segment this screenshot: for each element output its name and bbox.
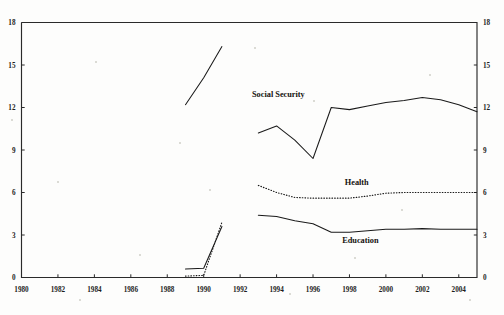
y-tick-label-left: 18	[8, 19, 16, 27]
y-tick-label-right: 3	[483, 232, 487, 240]
x-tick-label: 1988	[160, 286, 175, 294]
line-chart-canvas: 0369121518 0369121518 198019821984198619…	[0, 0, 504, 315]
y-tick-label-left: 3	[12, 232, 16, 240]
y-tick-label-right: 18	[483, 19, 491, 27]
x-tick-label: 1982	[51, 286, 66, 294]
y-tick-label-left: 12	[8, 104, 16, 112]
x-tick-label: 2000	[379, 286, 394, 294]
y-tick-label-right: 0	[483, 274, 487, 282]
y-tick-label-right: 12	[483, 104, 491, 112]
y-tick-label-left: 6	[12, 189, 16, 197]
y-tick-label-left: 9	[12, 147, 16, 155]
y-tick-label-right: 6	[483, 189, 487, 197]
series-label-social-security: Social Security	[252, 90, 306, 99]
x-tick-label: 1992	[233, 286, 248, 294]
series-label-health: Health	[345, 178, 369, 187]
series-label-education: Education	[342, 236, 379, 245]
x-tick-label: 1994	[269, 286, 284, 294]
chart-background	[0, 0, 504, 315]
x-tick-label: 1984	[87, 286, 102, 294]
chart-figure: 0369121518 0369121518 198019821984198619…	[0, 0, 504, 315]
y-tick-label-left: 15	[8, 62, 16, 70]
y-tick-label-right: 15	[483, 62, 491, 70]
x-tick-label: 1996	[306, 286, 321, 294]
x-tick-label: 1998	[342, 286, 357, 294]
y-tick-label-right: 9	[483, 147, 487, 155]
x-tick-label: 2004	[452, 286, 467, 294]
x-tick-label: 1990	[197, 286, 212, 294]
x-tick-label: 1986	[124, 286, 139, 294]
y-tick-label-left: 0	[12, 274, 16, 282]
x-tick-label: 1980	[14, 286, 29, 294]
x-tick-label: 2002	[415, 286, 430, 294]
